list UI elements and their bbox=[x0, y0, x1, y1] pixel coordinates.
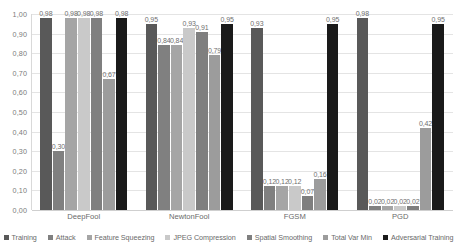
bar-value-label: 0,02 bbox=[406, 198, 419, 205]
x-axis-category-label: PGD bbox=[348, 212, 454, 221]
bar-value-label: 0,02 bbox=[381, 198, 394, 205]
bar-group-newtonfool: 0,950,840,840,930,910,790,95 bbox=[137, 14, 243, 210]
bar-value-label: 0,95 bbox=[326, 16, 339, 23]
y-axis-tick-label: 0,60 bbox=[13, 88, 27, 97]
y-axis-tick-label: 0,30 bbox=[13, 147, 27, 156]
legend-label: Total Var Min bbox=[331, 233, 372, 242]
legend-label: Adversarial Training bbox=[391, 233, 454, 242]
bar[interactable]: 0,91 bbox=[196, 32, 208, 210]
bar-group-pgd: 0,980,020,020,020,020,420,95 bbox=[348, 14, 454, 210]
bar[interactable]: 0,12 bbox=[289, 186, 301, 210]
bar[interactable]: 0,07 bbox=[302, 196, 314, 210]
bar-groups: 0,980,300,980,980,980,670,980,950,840,84… bbox=[31, 14, 453, 210]
bar-value-label: 0,16 bbox=[313, 171, 326, 178]
bar-value-label: 0,93 bbox=[250, 20, 263, 27]
bar-value-label: 0,30 bbox=[52, 143, 65, 150]
bar[interactable]: 0,98 bbox=[78, 18, 90, 210]
bar[interactable]: 0,16 bbox=[314, 179, 326, 210]
legend-swatch-icon bbox=[247, 235, 252, 240]
y-axis-tick-label: 0,70 bbox=[13, 68, 27, 77]
legend-label: JPEG Compression bbox=[173, 233, 235, 242]
bar[interactable]: 0,12 bbox=[264, 186, 276, 210]
bar-value-label: 0,02 bbox=[394, 198, 407, 205]
bar[interactable]: 0,95 bbox=[432, 24, 444, 210]
bar-value-label: 0,98 bbox=[90, 10, 103, 17]
x-axis-category-label: FGSM bbox=[242, 212, 348, 221]
bar-value-label: 0,98 bbox=[64, 10, 77, 17]
bar-value-label: 0,79 bbox=[208, 47, 221, 54]
bar[interactable]: 0,95 bbox=[327, 24, 339, 210]
legend-item-jpeg-compression[interactable]: JPEG Compression bbox=[165, 233, 235, 242]
bar[interactable]: 0,79 bbox=[209, 55, 221, 210]
bar[interactable]: 0,98 bbox=[357, 18, 369, 210]
legend-item-feature-squeezing[interactable]: Feature Squeezing bbox=[87, 233, 155, 242]
legend-item-training[interactable]: Training bbox=[4, 233, 37, 242]
bar[interactable]: 0,84 bbox=[158, 45, 170, 210]
bar[interactable]: 0,02 bbox=[407, 206, 419, 210]
bar-value-label: 0,07 bbox=[301, 188, 314, 195]
plot-area: 1,000,900,800,700,600,500,400,300,200,10… bbox=[0, 0, 457, 228]
legend-swatch-icon bbox=[87, 235, 92, 240]
bar-value-label: 0,12 bbox=[263, 178, 276, 185]
bar-value-label: 0,84 bbox=[157, 37, 170, 44]
legend-swatch-icon bbox=[165, 235, 170, 240]
bar-value-label: 0,98 bbox=[115, 10, 128, 17]
y-axis-tick-label: 0,50 bbox=[13, 108, 27, 117]
legend-swatch-icon bbox=[48, 235, 53, 240]
legend-swatch-icon bbox=[323, 235, 328, 240]
y-axis-tick-label: 0,90 bbox=[13, 29, 27, 38]
bar[interactable]: 0,93 bbox=[183, 28, 195, 210]
x-axis-categories: DeepFoolNewtonFoolFGSMPGD bbox=[31, 212, 453, 221]
bar[interactable]: 0,98 bbox=[65, 18, 77, 210]
bar-value-label: 0,91 bbox=[195, 24, 208, 31]
chart-legend: TrainingAttackFeature SqueezingJPEG Comp… bbox=[0, 233, 457, 242]
y-axis: 1,000,900,800,700,600,500,400,300,200,10… bbox=[0, 14, 30, 210]
bar-value-label: 0,95 bbox=[432, 16, 445, 23]
bar-value-label: 0,02 bbox=[368, 198, 381, 205]
bar-value-label: 0,84 bbox=[170, 37, 183, 44]
bar[interactable]: 0,02 bbox=[369, 206, 381, 210]
bar[interactable]: 0,93 bbox=[251, 28, 263, 210]
bar-group-fgsm: 0,930,120,120,120,070,160,95 bbox=[242, 14, 348, 210]
bar-value-label: 0,42 bbox=[419, 120, 432, 127]
bar-value-label: 0,95 bbox=[145, 16, 158, 23]
x-axis-category-label: DeepFool bbox=[31, 212, 137, 221]
bar-value-label: 0,95 bbox=[221, 16, 234, 23]
legend-item-spatial-smoothing[interactable]: Spatial Smoothing bbox=[247, 233, 313, 242]
bar[interactable]: 0,02 bbox=[382, 206, 394, 210]
bar[interactable]: 0,30 bbox=[53, 151, 65, 210]
bar[interactable]: 0,12 bbox=[276, 186, 288, 210]
legend-item-adversarial-training[interactable]: Adversarial Training bbox=[383, 233, 454, 242]
legend-item-total-var-min[interactable]: Total Var Min bbox=[323, 233, 372, 242]
bar[interactable]: 0,67 bbox=[103, 79, 115, 210]
bar-value-label: 0,93 bbox=[183, 20, 196, 27]
gridline bbox=[32, 210, 453, 211]
bar-value-label: 0,98 bbox=[39, 10, 52, 17]
bar[interactable]: 0,02 bbox=[394, 206, 406, 210]
y-axis-tick-label: 1,00 bbox=[13, 10, 27, 19]
bar[interactable]: 0,95 bbox=[146, 24, 158, 210]
legend-label: Training bbox=[12, 233, 37, 242]
bar-value-label: 0,12 bbox=[288, 178, 301, 185]
y-axis-tick-label: 0,40 bbox=[13, 127, 27, 136]
bar[interactable]: 0,84 bbox=[171, 45, 183, 210]
bar[interactable]: 0,98 bbox=[40, 18, 52, 210]
legend-label: Spatial Smoothing bbox=[255, 233, 313, 242]
y-axis-tick-label: 0,20 bbox=[13, 166, 27, 175]
bar[interactable]: 0,95 bbox=[221, 24, 233, 210]
legend-swatch-icon bbox=[4, 235, 9, 240]
x-axis-category-label: NewtonFool bbox=[137, 212, 243, 221]
bar-value-label: 0,98 bbox=[77, 10, 90, 17]
y-axis-tick-label: 0,10 bbox=[13, 186, 27, 195]
bar-chart: 1,000,900,800,700,600,500,400,300,200,10… bbox=[0, 0, 457, 251]
y-axis-tick-label: 0,00 bbox=[13, 206, 27, 215]
legend-label: Feature Squeezing bbox=[95, 233, 155, 242]
legend-label: Attack bbox=[56, 233, 76, 242]
legend-item-attack[interactable]: Attack bbox=[48, 233, 76, 242]
bar[interactable]: 0,42 bbox=[420, 128, 432, 210]
legend-swatch-icon bbox=[383, 235, 388, 240]
bar-group-deepfool: 0,980,300,980,980,980,670,98 bbox=[31, 14, 137, 210]
bar[interactable]: 0,98 bbox=[116, 18, 128, 210]
bar-value-label: 0,12 bbox=[275, 178, 288, 185]
bar[interactable]: 0,98 bbox=[91, 18, 103, 210]
